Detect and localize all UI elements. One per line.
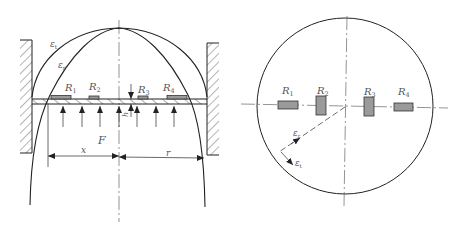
- side-gauge-r1-label: R1: [64, 82, 77, 95]
- pressure-arrows: [63, 106, 174, 127]
- radial-strain-label: εr: [58, 60, 66, 71]
- top-tangential-strain-label: εt: [295, 158, 303, 169]
- top-gauge-r2: [316, 96, 326, 115]
- x-dimension-label: x: [81, 145, 86, 155]
- radial-strain-curve: [30, 28, 205, 207]
- top-gauge-r1-label: R1: [281, 85, 294, 98]
- top-radial-strain-label: εr: [293, 128, 301, 139]
- diaphragm-plate: [32, 99, 207, 104]
- top-gauge-r4-label: R4: [397, 86, 410, 99]
- thickness-label: h: [121, 112, 130, 117]
- r-dimension-line: [119, 157, 204, 158]
- force-label: F: [97, 134, 106, 147]
- tangential-strain-label: εt: [50, 39, 58, 50]
- side-gauge-r2: [89, 96, 99, 99]
- tangential-strain-arrow: [281, 152, 293, 165]
- side-gauge-r1: [51, 96, 71, 100]
- r-dimension-label: r: [166, 148, 171, 158]
- side-gauge-r3-label: R3: [137, 84, 150, 97]
- side-gauge-r2-label: R2: [88, 81, 101, 94]
- top-gauge-r4: [394, 103, 413, 111]
- left-clamp-wall: [20, 40, 32, 153]
- vertical-axis: [344, 16, 347, 206]
- side-view: h εt εr R1 R2 R3 R4 F x r: [20, 20, 219, 222]
- top-view: R1 R2 R3 R4 εr εt: [241, 16, 448, 206]
- diaphragm-strain-diagram: h εt εr R1 R2 R3 R4 F x r: [0, 0, 461, 231]
- top-gauge-r3: [364, 97, 374, 116]
- side-gauge-r4-label: R4: [162, 82, 175, 95]
- side-gauge-r4: [167, 96, 187, 100]
- top-gauge-r1: [278, 101, 298, 109]
- radial-direction-line: [279, 107, 345, 152]
- right-clamp-wall: [207, 43, 219, 155]
